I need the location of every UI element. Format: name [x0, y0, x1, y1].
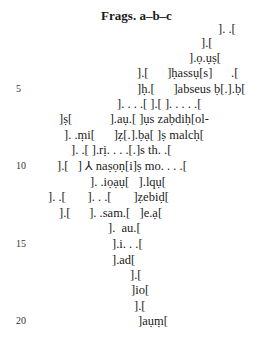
text-line: ].[ ]ḥassụ[s] .[	[137, 66, 238, 80]
text-line: ]ṣ[ ].aụ.[ ]ụs zaḅdiḥ[ol-	[59, 112, 209, 126]
text-line: ].i. . .[	[112, 237, 143, 251]
text-line: ]. .ṃi[ ]ẓ[.].ḅạ[ ]ṣ malcḥ[	[64, 128, 204, 142]
line-number: 15	[16, 237, 26, 251]
line-number: 20	[16, 314, 26, 328]
text-line: ].[ ] ⅄ naṣọṇ[i]ṣ mo. . . .[	[57, 159, 187, 173]
text-line: ]io[	[131, 283, 149, 297]
text-line: ].[	[134, 299, 145, 313]
text-line: ].[	[201, 36, 212, 50]
text-line: ]. .[	[218, 22, 236, 36]
text-line: ]. au.[	[108, 221, 141, 235]
text-line: ].ọ.ụṣ[	[189, 51, 221, 65]
text-line: ].ad[	[112, 253, 135, 267]
text-line: ]. . . .[ ].[ ]. . . . .[	[117, 97, 201, 111]
text-line: ]aụṃ[	[138, 314, 168, 328]
text-line: ].[	[130, 268, 141, 282]
line-number: 5	[16, 82, 21, 96]
text-line: ].[ ]. .sam.[ ]e.ạ[	[59, 206, 162, 220]
text-line: ]ḥ.[ ]abseus ḅ[.].ḅ[	[137, 82, 245, 96]
text-line: ]. .[ ].rị. . . .[.]s th. .[	[71, 143, 171, 157]
text-line: ]. .[ ]. . .[ ]ẓebiḍ[	[48, 190, 169, 204]
text-line: ]. .iọạụ[ ].lqụ[	[90, 175, 166, 189]
line-number: 10	[16, 159, 26, 173]
